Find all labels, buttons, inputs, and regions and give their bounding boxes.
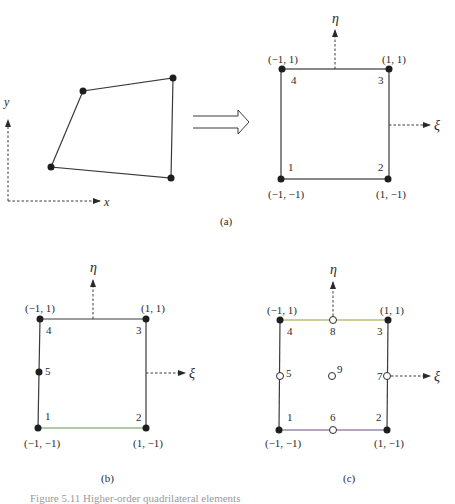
node-4 [37, 316, 44, 323]
physical-node [168, 175, 175, 182]
node-5 [277, 373, 284, 380]
node-1 [278, 176, 285, 183]
node-2-coord: (1, −1) [376, 188, 406, 201]
node-7 [384, 373, 391, 380]
node-1 [35, 425, 42, 432]
eta-label: η [90, 260, 97, 275]
node-1-id: 1 [45, 410, 51, 422]
xi-label: ξ [189, 366, 195, 381]
node-2 [384, 427, 391, 434]
physical-node [80, 88, 87, 95]
node-3 [385, 317, 392, 324]
node-6 [330, 427, 337, 434]
node-5 [36, 369, 43, 376]
node-1-coord: (−1, −1) [24, 437, 61, 450]
panel-a-label: (a) [220, 215, 233, 228]
node-1-coord: (−1, −1) [265, 437, 302, 450]
node-3-id: 3 [136, 324, 142, 336]
node-6-id: 6 [330, 411, 336, 423]
node-1-coord: (−1, −1) [268, 188, 305, 201]
node-2-coord: (1, −1) [133, 437, 163, 450]
node-2 [143, 425, 150, 432]
node-1-id: 1 [288, 161, 294, 173]
xi-label: ξ [434, 369, 440, 384]
y-axis-label: y [3, 95, 10, 109]
parent-square [281, 69, 389, 179]
panel-b-element: η ξ 1 2 3 4 5 (−1, −1) (1, −1) (1, 1) (−… [24, 260, 195, 450]
node-4-coord: (−1, 1) [267, 304, 297, 317]
node-3-id: 3 [377, 325, 383, 337]
panel-c-label: (c) [343, 472, 356, 485]
xi-label: ξ [434, 118, 440, 133]
node-8-id: 8 [330, 325, 336, 337]
node-4-id: 4 [287, 325, 293, 337]
eta-label: η [332, 11, 339, 26]
node-9-id: 9 [337, 363, 343, 375]
node-5-id: 5 [286, 367, 292, 379]
node-4-id: 4 [46, 324, 52, 336]
node-4-coord: (−1, 1) [25, 302, 55, 315]
physical-quadrilateral [51, 78, 173, 178]
node-7-id: 7 [377, 370, 383, 382]
node-9 [329, 373, 336, 380]
node-2 [385, 176, 392, 183]
eta-label: η [330, 262, 337, 277]
node-3 [386, 66, 393, 73]
node-1-id: 1 [287, 411, 293, 423]
node-8 [330, 317, 337, 324]
node-3-coord: (1, 1) [141, 302, 165, 315]
physical-node [170, 75, 177, 82]
node-1 [276, 427, 283, 434]
x-axis-label: x [103, 195, 110, 209]
node-4 [279, 66, 286, 73]
node-4-id: 4 [291, 74, 297, 86]
mapping-arrow-icon [193, 110, 249, 134]
node-3-coord: (1, 1) [382, 53, 406, 66]
figure-caption: Figure 5.11 Higher-order quadrilateral e… [30, 492, 240, 504]
panel-a-physical-element: y x [3, 75, 177, 210]
node-2-id: 2 [378, 161, 384, 173]
physical-node [48, 164, 55, 171]
panel-a-parent-element: η ξ 1 2 3 4 (−1, −1) (1, −1) (1, 1) (−1,… [268, 11, 440, 201]
node-3 [143, 316, 150, 323]
node-4 [277, 317, 284, 324]
node-4-coord: (−1, 1) [268, 53, 298, 66]
node-2-coord: (1, −1) [374, 437, 404, 450]
panel-b-label: (b) [101, 472, 114, 485]
node-5-id: 5 [45, 365, 51, 377]
node-2-id: 2 [136, 411, 142, 423]
node-2-id: 2 [376, 411, 382, 423]
node-3-coord: (1, 1) [380, 304, 404, 317]
panel-c-element: η ξ 1 2 3 4 5 6 7 8 9 (−1, −1) (1, −1) (… [265, 262, 440, 450]
node-3-id: 3 [378, 74, 384, 86]
